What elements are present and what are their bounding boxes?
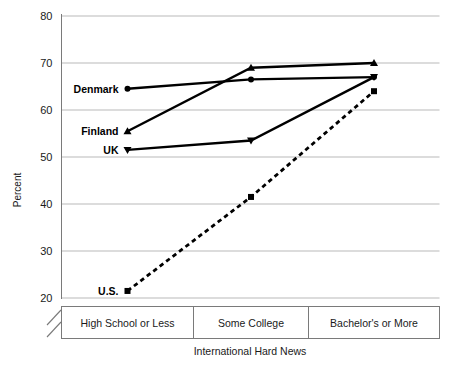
data-point-square-marker [125, 288, 131, 294]
y-axis-title: Percent [12, 173, 23, 208]
series-group [128, 63, 375, 291]
series-labels-group: DenmarkFinlandUKU.S. [74, 83, 119, 297]
gridlines-group [62, 16, 440, 298]
x-axis-title: International Hard News [194, 345, 307, 357]
category-label: Bachelor's or More [330, 317, 418, 329]
data-point-square-marker [248, 194, 254, 200]
y-tick-label: 70 [40, 57, 52, 69]
series-label-denmark: Denmark [74, 83, 119, 95]
axis-break-icon [47, 310, 61, 337]
data-point-square-marker [371, 88, 377, 94]
y-tick-label: 60 [40, 104, 52, 116]
series-line-us [128, 91, 375, 291]
y-tick-label: 40 [40, 198, 52, 210]
series-label-uk: UK [103, 144, 119, 156]
data-point-circle-marker [248, 76, 254, 82]
y-tick-label: 50 [40, 151, 52, 163]
y-tick-label: 20 [40, 292, 52, 304]
y-tick-labels-group: 20304050607080 [40, 10, 52, 304]
series-label-us: U.S. [98, 285, 119, 297]
series-label-finland: Finland [81, 125, 118, 137]
category-labels-group: High School or LessSome CollegeBachelor'… [81, 317, 419, 329]
data-point-circle-marker [125, 86, 131, 92]
line-chart: 20304050607080 Percent DenmarkFinlandUKU… [0, 0, 456, 368]
category-label: Some College [218, 317, 284, 329]
y-tick-label: 80 [40, 10, 52, 22]
category-label: High School or Less [81, 317, 175, 329]
y-tick-label: 30 [40, 245, 52, 257]
chart-container: 20304050607080 Percent DenmarkFinlandUKU… [0, 0, 456, 368]
